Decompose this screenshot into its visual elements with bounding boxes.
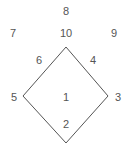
region-label-8: 8	[63, 6, 69, 17]
region-label-7: 7	[10, 28, 16, 39]
region-label-6: 6	[36, 55, 42, 66]
region-label-5: 5	[11, 92, 17, 103]
region-label-9: 9	[111, 28, 117, 39]
diagram-canvas: 8 7 10 9 6 4 5 1 3 2	[0, 0, 132, 151]
region-label-2: 2	[63, 119, 69, 130]
region-label-1: 1	[63, 92, 69, 103]
region-label-4: 4	[90, 55, 96, 66]
region-label-10: 10	[60, 28, 72, 39]
region-label-3: 3	[115, 92, 121, 103]
